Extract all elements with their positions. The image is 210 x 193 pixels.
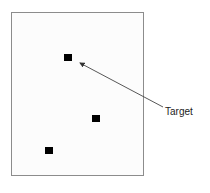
marker-square[interactable] bbox=[92, 115, 100, 122]
target-label: Target bbox=[165, 106, 193, 118]
canvas-frame bbox=[11, 12, 144, 176]
marker-square[interactable] bbox=[45, 147, 53, 154]
target-marker[interactable] bbox=[64, 54, 72, 61]
